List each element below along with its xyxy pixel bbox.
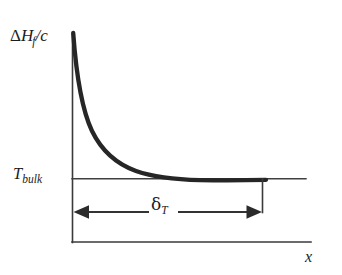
x-axis-label: x: [305, 249, 312, 265]
delta-t-label-subscript: T: [161, 204, 167, 216]
t-bulk-label: Tbulk: [13, 166, 42, 185]
y-axis-label-delta: Δ: [10, 26, 21, 45]
t-bulk-label-subscript: bulk: [22, 173, 42, 185]
delta-t-label: δT: [149, 196, 170, 217]
y-axis-label-slash-c: /c: [35, 26, 47, 45]
y-axis-label: ΔHf/c: [10, 27, 48, 47]
thermal-boundary-layer-figure: ΔHf/c Tbulk δT x: [0, 0, 342, 275]
t-bulk-label-base: T: [13, 164, 22, 183]
delta-arrowhead-left: [74, 205, 90, 219]
delta-arrowhead-right: [247, 205, 263, 219]
temperature-profile-curve: [73, 33, 266, 180]
plot-area: [0, 0, 342, 275]
delta-t-label-base: δ: [151, 194, 161, 214]
